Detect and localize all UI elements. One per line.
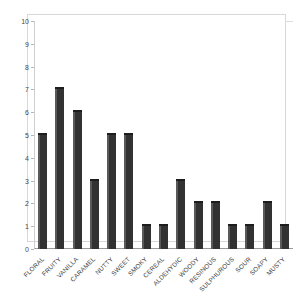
y-tick-label: 5	[25, 132, 29, 139]
bar-top-face	[107, 133, 116, 135]
bar-slot	[189, 21, 206, 249]
bar-top-face	[38, 133, 47, 135]
y-tick-label: 7	[25, 86, 29, 93]
bar[interactable]	[107, 135, 116, 249]
bar[interactable]	[159, 226, 168, 249]
bar-top-face	[159, 224, 168, 226]
x-label-slot: ALDEHYDIC	[172, 252, 189, 305]
y-tick-label: 2	[25, 200, 29, 207]
bar[interactable]	[38, 135, 47, 249]
x-tick-label: FLORAL	[22, 256, 45, 279]
bar-top-face	[142, 224, 151, 226]
bar-top-face	[55, 87, 64, 89]
bar-slot	[155, 21, 172, 249]
bar-top-face	[211, 201, 220, 203]
y-tick-label: 8	[25, 63, 29, 70]
bar-top-face	[228, 224, 237, 226]
bar-top-face	[176, 179, 185, 181]
x-label-slot: SOUR	[241, 252, 258, 305]
plot-area: 012345678910	[27, 14, 293, 249]
bar-slot	[69, 21, 86, 249]
y-tick-mark	[31, 249, 34, 250]
bar-top-face	[280, 224, 289, 226]
y-tick-label: 1	[25, 223, 29, 230]
bar-top-face	[263, 201, 272, 203]
x-label-slot: FLORAL	[34, 252, 51, 305]
bar[interactable]	[124, 135, 133, 249]
bar-slot	[51, 21, 68, 249]
bar-top-face	[245, 224, 254, 226]
bar-slot	[207, 21, 224, 249]
bar-slot	[258, 21, 275, 249]
bar-top-face	[90, 179, 99, 181]
bar-slot	[276, 21, 293, 249]
bar[interactable]	[211, 203, 220, 249]
x-label-slot: NUTTY	[103, 252, 120, 305]
bar-slot	[172, 21, 189, 249]
y-tick-label: 6	[25, 109, 29, 116]
y-tick-label: 4	[25, 154, 29, 161]
bar[interactable]	[263, 203, 272, 249]
bar-top-face	[73, 110, 82, 112]
bars-container	[34, 21, 293, 249]
x-label-slot: SULPHUROUS	[224, 252, 241, 305]
x-label-slot: CARAMEL	[86, 252, 103, 305]
bar-top-face	[124, 133, 133, 135]
bar[interactable]	[55, 89, 64, 249]
bar-slot	[120, 21, 137, 249]
y-tick-label: 9	[25, 40, 29, 47]
y-tick-label: 0	[25, 246, 29, 253]
x-label-slot: SOAPY	[258, 252, 275, 305]
x-label-slot: SWEET	[120, 252, 137, 305]
x-axis-labels: FLORALFRUITYVANILLACARAMELNUTTYSWEETSMOK…	[34, 252, 293, 305]
bar[interactable]	[280, 226, 289, 249]
bar[interactable]	[142, 226, 151, 249]
bar[interactable]	[176, 181, 185, 249]
bar-slot	[138, 21, 155, 249]
bar[interactable]	[90, 181, 99, 249]
bar-top-face	[194, 201, 203, 203]
bar[interactable]	[73, 112, 82, 249]
x-label-slot: MUSTY	[276, 252, 293, 305]
bar[interactable]	[228, 226, 237, 249]
bar-chart: 012345678910 FLORALFRUITYVANILLACARAMELN…	[0, 0, 301, 305]
bar-slot	[224, 21, 241, 249]
bar-slot	[103, 21, 120, 249]
bar[interactable]	[194, 203, 203, 249]
y-tick-label: 3	[25, 177, 29, 184]
y-tick-label: 10	[21, 18, 29, 25]
bar-slot	[34, 21, 51, 249]
bar-slot	[241, 21, 258, 249]
bar-slot	[86, 21, 103, 249]
bar[interactable]	[245, 226, 254, 249]
